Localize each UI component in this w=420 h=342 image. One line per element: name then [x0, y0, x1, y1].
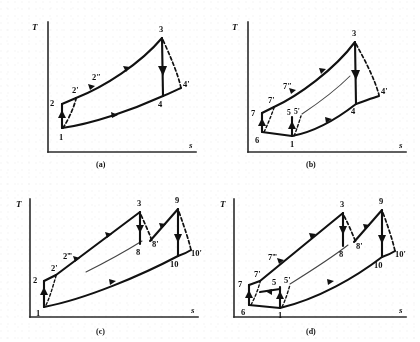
- panel-a-plot: T s 1 2 2' 2″ 3 4 4' (a): [0, 0, 210, 171]
- point-label-3: 3: [352, 28, 356, 38]
- point-label-10: 10: [374, 260, 383, 270]
- point-label-2: 2: [33, 275, 37, 285]
- point-label-7doubleprime: 7″: [283, 81, 292, 91]
- process-1-4-lower-isobar: [62, 96, 163, 128]
- panel-d-caption: (d): [306, 327, 316, 336]
- compression-arrow: [40, 287, 48, 295]
- point-label-1: 1: [278, 310, 282, 320]
- expansion-arrow-3-8: [136, 225, 144, 233]
- point-label-4prime: 4': [183, 79, 190, 89]
- process-9-to-10prime-actual: [383, 213, 395, 251]
- panel-a-caption: (a): [96, 160, 106, 169]
- base-connector-6-1: [249, 305, 280, 308]
- process-1-to-5prime-actual: [282, 285, 290, 307]
- process-6-to-7prime-actual: [251, 282, 260, 305]
- point-label-9: 9: [175, 195, 179, 205]
- expansion-arrow: [158, 66, 167, 76]
- process-3-to-8prime-actual: [344, 216, 356, 242]
- process-9-to-10prime-actual: [179, 212, 191, 250]
- process-10-to-10prime: [382, 251, 395, 257]
- expansion-arrow-9-10: [174, 234, 182, 243]
- point-label-1: 1: [290, 139, 294, 149]
- x-axis-label: s: [398, 140, 403, 150]
- compression-arrow: [58, 110, 66, 118]
- x-axis-label: s: [398, 305, 403, 315]
- process-4-to-4prime: [163, 88, 181, 96]
- point-label-10prime: 10': [191, 248, 202, 258]
- compression-arrow-1-5: [276, 291, 284, 299]
- point-label-9: 9: [379, 196, 383, 206]
- flow-arrow-lower: [111, 112, 118, 118]
- y-axis-label: T: [220, 199, 226, 209]
- process-7prime-to-3: [274, 42, 355, 107]
- process-2prime-to-3: [76, 38, 162, 98]
- point-label-8: 8: [339, 249, 343, 259]
- point-label-10: 10: [170, 259, 179, 269]
- panel-a: T s 1 2 2' 2″ 3 4 4' (a): [0, 0, 210, 171]
- point-label-2tripleprime: 2‴: [63, 251, 72, 261]
- panel-c-caption: (c): [96, 327, 105, 336]
- process-3-to-8prime-actual: [141, 215, 152, 241]
- regeneration-line: [302, 76, 350, 114]
- point-label-5: 5: [272, 277, 276, 287]
- point-label-7: 7: [238, 279, 243, 289]
- panel-b-caption: (b): [306, 160, 316, 169]
- panel-d: T s 6 7 7' 7‴ 1 5 5' 3 8 8' 9 10 10' (d): [210, 171, 420, 342]
- ts-diagram-figure: T s 1 2 2' 2″ 3 4 4' (a): [0, 0, 420, 342]
- y-axis-label: T: [16, 199, 22, 209]
- compression-arrow-6-7: [258, 118, 266, 126]
- process-7prime-to-3: [260, 213, 343, 281]
- point-label-8prime: 8': [356, 241, 363, 251]
- panel-b-plot: T s 6 7 7' 7″ 1 5 5' 3 4 4' (b): [210, 0, 420, 171]
- panel-d-plot: T s 6 7 7' 7‴ 1 5 5' 3 8 8' 9 10 10' (d): [210, 171, 420, 342]
- expansion-arrow-3-8: [339, 226, 347, 235]
- process-4-to-4prime: [356, 96, 379, 104]
- point-label-4: 4: [351, 106, 356, 116]
- panel-c: T s 1 2 2' 2‴ 3 8 8' 9 10 10' (c): [0, 171, 210, 342]
- point-label-3: 3: [137, 198, 141, 208]
- y-axis-label: T: [232, 22, 238, 32]
- process-1-4-lower-isobar: [292, 104, 356, 136]
- expansion-arrow-9-10: [378, 235, 386, 244]
- point-label-7prime: 7': [268, 95, 275, 105]
- point-label-2doubleprime: 2″: [92, 72, 101, 82]
- process-10-to-10prime: [178, 250, 191, 256]
- point-label-2: 2: [50, 98, 54, 108]
- compression-arrow-1-5: [288, 121, 296, 129]
- panel-c-plot: T s 1 2 2' 2‴ 3 8 8' 9 10 10' (c): [0, 171, 210, 342]
- point-label-4: 4: [158, 99, 163, 109]
- point-label-8: 8: [136, 247, 140, 257]
- point-label-6: 6: [255, 135, 259, 145]
- point-label-4prime: 4': [381, 86, 388, 96]
- point-label-3: 3: [159, 24, 163, 34]
- process-3-to-4prime-actual: [356, 44, 379, 95]
- point-label-7prime: 7': [254, 269, 261, 279]
- flow-arrow-lower: [327, 279, 334, 285]
- point-label-7tripleprime: 7‴: [268, 252, 277, 262]
- expansion-arrow: [351, 70, 360, 80]
- point-label-3: 3: [340, 199, 344, 209]
- process-1-to-5prime-actual: [294, 116, 301, 136]
- y-axis-label: T: [32, 22, 38, 32]
- compression-arrow-6-7: [245, 290, 253, 298]
- point-label-7: 7: [251, 108, 256, 118]
- point-label-8prime: 8': [152, 239, 159, 249]
- point-label-5: 5: [287, 108, 291, 117]
- point-label-1: 1: [36, 308, 40, 318]
- point-label-2prime: 2': [72, 85, 79, 95]
- point-label-2prime: 2': [51, 263, 58, 273]
- point-label-5prime: 5': [284, 275, 291, 285]
- base-connector-6-1: [262, 132, 292, 136]
- point-label-6: 6: [241, 307, 245, 317]
- process-3-to-4prime-actual: [163, 40, 181, 88]
- process-7-to-7prime: [249, 281, 260, 285]
- panel-b: T s 6 7 7' 7″ 1 5 5' 3 4 4' (b): [210, 0, 420, 171]
- point-label-1: 1: [59, 132, 63, 142]
- point-label-10prime: 10': [395, 249, 406, 259]
- x-axis-label: s: [188, 140, 193, 150]
- point-label-5prime: 5': [294, 107, 300, 116]
- x-axis-label: s: [190, 305, 195, 315]
